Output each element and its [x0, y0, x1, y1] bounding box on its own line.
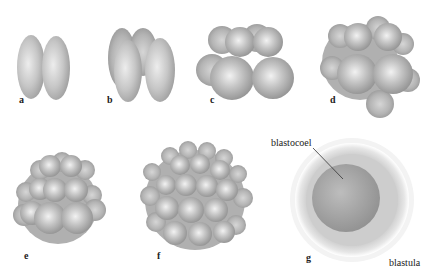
- panel-label-d: d: [330, 95, 336, 105]
- stage-g-blastula: [290, 138, 414, 262]
- panel-label-b: b: [107, 95, 113, 105]
- stage-c-eight-cell: [196, 24, 294, 100]
- blastula-label: blastula: [389, 258, 420, 268]
- stage-b-four-cell: [108, 28, 175, 102]
- panel-label-g: g: [306, 253, 311, 263]
- stage-e-morula: [13, 152, 106, 244]
- stage-f-morula: [140, 141, 253, 250]
- panel-label-f: f: [157, 251, 160, 261]
- blastocoel-label: blastocoel: [271, 138, 312, 148]
- diagram-artwork: [0, 0, 435, 276]
- panel-label-a: a: [19, 95, 24, 105]
- cleavage-stages-diagram: a b c d e f g blastocoel blastula: [0, 0, 435, 276]
- panel-label-c: c: [210, 95, 214, 105]
- stage-a-two-cell: [17, 35, 70, 100]
- panel-label-e: e: [24, 251, 28, 261]
